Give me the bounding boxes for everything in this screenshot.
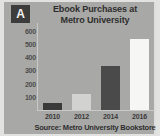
x-tick-label: 2012: [67, 112, 96, 121]
y-tick-label: 600: [14, 28, 36, 35]
x-axis-line: [37, 110, 155, 111]
x-tick-label: 2014: [96, 112, 125, 121]
chart-title: Ebook Purchases at Metro University: [34, 4, 156, 25]
bar-2010: [43, 103, 62, 110]
y-tick-label: 500: [14, 41, 36, 48]
figure-label-badge: A: [11, 5, 30, 23]
chart-panel: A Ebook Purchases at Metro University 60…: [4, 2, 156, 134]
bar-2012: [72, 94, 91, 110]
y-tick-label: 400: [14, 54, 36, 61]
bar-series: [38, 24, 154, 110]
y-tick-label: 300: [14, 67, 36, 74]
chart-screenshot: A Ebook Purchases at Metro University 60…: [0, 0, 160, 136]
y-tick-label: 100: [14, 94, 36, 101]
bar-2016: [130, 39, 149, 110]
source-caption: Source: Metro University Bookstore: [34, 123, 156, 132]
x-axis-tick-labels: 2010201220142016: [38, 112, 154, 122]
y-tick-label: 200: [14, 81, 36, 88]
y-axis-tick-labels: 600500400300200100: [12, 24, 36, 111]
x-tick-label: 2010: [38, 112, 67, 121]
bar-2014: [101, 66, 120, 110]
x-tick-label: 2016: [125, 112, 154, 121]
chart-title-line-1: Ebook Purchases at: [34, 4, 156, 15]
